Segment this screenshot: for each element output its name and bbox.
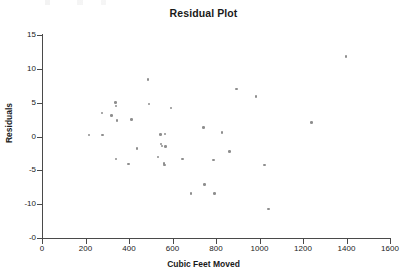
scatter-point [136, 147, 139, 150]
scatter-point [148, 103, 151, 106]
scatter-point [235, 88, 238, 91]
scatter-point [170, 107, 173, 110]
chart-title: Residual Plot [0, 7, 407, 19]
scatter-point [147, 78, 150, 81]
scatter-point [213, 192, 216, 195]
scatter-point [228, 150, 231, 153]
scatter-point [115, 105, 118, 108]
x-tick-label: 1000 [245, 245, 275, 253]
scatter-point [110, 114, 113, 117]
y-tick-label: 15 [10, 31, 36, 39]
scatter-point [127, 163, 130, 166]
x-tick-label: 200 [71, 245, 101, 253]
scatter-point [101, 134, 104, 137]
scatter-point [212, 159, 215, 162]
scatter-point [116, 119, 119, 122]
x-tick-label: 1600 [375, 245, 405, 253]
scatter-point [310, 121, 313, 124]
scatter-point [164, 145, 167, 148]
scatter-point [267, 208, 270, 211]
scatter-point [161, 145, 164, 148]
x-tick-label: 1200 [288, 245, 318, 253]
scatter-point [203, 183, 206, 186]
y-tick-label: -10 [10, 200, 36, 208]
x-axis-title: Cubic Feet Moved [0, 259, 407, 269]
scatter-point [263, 164, 266, 167]
y-tick-label: 10 [10, 65, 36, 73]
scatter-point [101, 112, 104, 115]
scatter-point [163, 164, 166, 167]
scatter-point [157, 156, 160, 159]
scatter-point [190, 192, 193, 195]
y-axis-title: Residuals [4, 88, 14, 158]
y-tick-label: -5 [10, 166, 36, 174]
scatter-point [202, 126, 205, 129]
scatter-point [345, 55, 348, 58]
y-tick-label: -0 [10, 234, 36, 242]
scatter-point [221, 131, 224, 134]
x-tick-label: 400 [114, 245, 144, 253]
residual-plot-chart: Residual Plot 151050-5-10-0 020040060080… [0, 0, 407, 277]
scatter-point [115, 158, 118, 161]
scatter-point [255, 95, 258, 98]
scatter-plot-area [42, 35, 390, 238]
x-tick-label: 1400 [332, 245, 362, 253]
scatter-point [114, 101, 117, 104]
top-edge-artifact [34, 0, 124, 5]
scatter-point [159, 133, 162, 136]
scatter-point [164, 133, 167, 136]
x-tick-label: 600 [158, 245, 188, 253]
scatter-point [130, 118, 133, 121]
x-tick-label: 800 [201, 245, 231, 253]
x-tick-label: 0 [27, 245, 57, 253]
scatter-point [88, 134, 91, 137]
scatter-point [181, 158, 184, 161]
